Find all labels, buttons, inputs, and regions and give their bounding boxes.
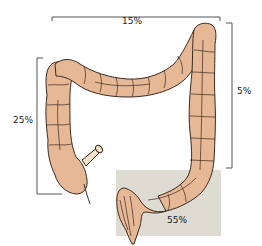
descending-percentage-label: 5%	[237, 86, 251, 96]
transverse-colon	[55, 30, 206, 97]
appendix	[84, 184, 90, 204]
colon-diagram: 15% 5% 25% 55%	[0, 0, 262, 246]
rectosigmoid-percentage-label: 55%	[167, 215, 187, 225]
transverse-percentage-label: 15%	[122, 16, 142, 26]
bracket-right	[226, 23, 232, 168]
colon-illustration	[0, 0, 262, 246]
ascending-percentage-label: 25%	[13, 115, 33, 125]
